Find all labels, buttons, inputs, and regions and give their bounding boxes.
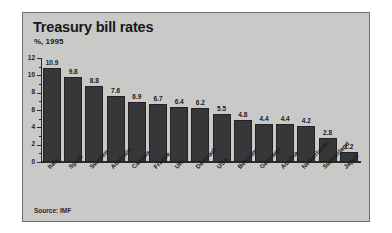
- y-axis-tick: [37, 127, 42, 128]
- bar-slot: 4.4: [255, 58, 273, 162]
- y-axis-tick-label: 10: [21, 72, 35, 79]
- bar-value-label: 4.8: [238, 112, 247, 119]
- y-axis-tick-label: 6: [21, 107, 35, 114]
- y-axis-tick-label: 12: [21, 55, 35, 62]
- y-axis-minor-tick: [39, 153, 43, 154]
- bar-value-label: 7.6: [111, 88, 120, 95]
- bar-slot: 6.2: [191, 58, 209, 162]
- y-axis-tick-label: 4: [21, 124, 35, 131]
- y-axis-tick: [37, 145, 42, 146]
- y-axis-minor-tick: [39, 101, 43, 102]
- y-axis-tick: [37, 58, 42, 59]
- bar-slot: 8.8: [85, 58, 103, 162]
- bar-slot: 4.2: [297, 58, 315, 162]
- bar-value-label: 6.7: [153, 96, 162, 103]
- y-axis-tick: [37, 75, 42, 76]
- y-axis-tick: [37, 110, 42, 111]
- bar-value-label: 8.8: [90, 78, 99, 85]
- y-axis-minor-tick: [39, 119, 43, 120]
- bar-value-label: 4.4: [259, 116, 268, 123]
- bar-value-label: 5.5: [217, 106, 226, 113]
- bar-slot: 7.6: [107, 58, 125, 162]
- y-axis-minor-tick: [39, 84, 43, 85]
- chart-title: Treasury bill rates: [33, 19, 153, 35]
- y-axis-tick-label: 0: [21, 159, 35, 166]
- bar[interactable]: [43, 68, 61, 162]
- chart-panel: Treasury bill rates %, 1995 024681012 10…: [22, 12, 370, 222]
- bar-slot: 6.4: [170, 58, 188, 162]
- y-axis-minor-tick: [39, 67, 43, 68]
- bar-value-label: 4.2: [302, 118, 311, 125]
- source-note: Source: IMF: [34, 207, 71, 214]
- y-axis-tick: [37, 162, 42, 163]
- y-axis-minor-tick: [39, 136, 43, 137]
- bar-slot: 6.7: [149, 58, 167, 162]
- bar-value-label: 6.4: [175, 99, 184, 106]
- chart-subtitle: %, 1995: [34, 37, 63, 46]
- bar-slot: 6.9: [128, 58, 146, 162]
- bar[interactable]: [213, 114, 231, 162]
- chart-screenshot: Treasury bill rates %, 1995 024681012 10…: [0, 0, 392, 233]
- y-axis-tick-label: 2: [21, 141, 35, 148]
- bar-value-label: 2.8: [323, 130, 332, 137]
- bar-slot: 5.5: [213, 58, 231, 162]
- plot-area: 024681012 10.99.88.87.66.96.76.46.25.54.…: [41, 58, 361, 176]
- y-axis-tick-label: 8: [21, 89, 35, 96]
- bar-value-label: 6.2: [196, 100, 205, 107]
- bar-value-label: 10.9: [46, 60, 59, 67]
- bar[interactable]: [64, 77, 82, 162]
- bar-slot: 9.8: [64, 58, 82, 162]
- bar-value-label: 9.8: [69, 69, 78, 76]
- bar-value-label: 4.4: [281, 116, 290, 123]
- bar-slot: 10.9: [43, 58, 61, 162]
- bar-value-label: 6.9: [132, 94, 141, 101]
- bar-slot: 4.8: [234, 58, 252, 162]
- bar[interactable]: [170, 107, 188, 162]
- bar-series: 10.99.88.87.66.96.76.46.25.54.84.44.44.2…: [43, 58, 361, 162]
- y-axis-tick: [37, 93, 42, 94]
